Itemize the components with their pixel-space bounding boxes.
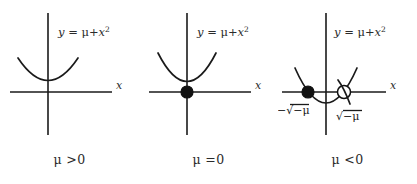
plot-mu-zero: x y = μ+x2 xyxy=(139,0,278,152)
equation-label: y = μ+x2 xyxy=(57,25,110,39)
panel-caption-mu-positive: μ >0 xyxy=(0,152,139,167)
root-label-left-text: −√−μ xyxy=(278,104,310,117)
equation-label: y = μ+x2 xyxy=(333,25,386,39)
panel-mu-positive: x y = μ+x2 μ >0 xyxy=(0,0,139,184)
equation-sign: = xyxy=(207,25,217,39)
root-label-left: −√−μ xyxy=(278,104,310,117)
x-axis-label: x xyxy=(255,79,262,92)
equilibrium-marker-open xyxy=(338,86,351,99)
panel-caption-mu-zero: μ =0 xyxy=(139,152,278,167)
panel-caption-mu-negative: μ <0 xyxy=(278,152,417,167)
figure-root: x y = μ+x2 μ >0 x y = μ+x2 μ =0 xyxy=(0,0,417,184)
equilibrium-marker-filled xyxy=(302,86,314,98)
equation-sign: = xyxy=(68,25,78,39)
x-axis-label: x xyxy=(390,79,397,92)
equation-rhs-exponent: 2 xyxy=(244,25,249,34)
panel-mu-zero: x y = μ+x2 μ =0 xyxy=(139,0,278,184)
equation-rhs-mu: μ+ xyxy=(81,25,98,39)
equation-rhs-mu: μ+ xyxy=(220,25,237,39)
x-axis-label: x xyxy=(116,79,123,92)
equilibrium-marker-filled xyxy=(181,86,193,98)
root-label-right: √−μ xyxy=(336,110,362,123)
equation-rhs-exponent: 2 xyxy=(105,25,110,34)
plot-mu-negative: x −√−μ √−μ y = μ+x2 xyxy=(278,0,417,152)
root-label-left-radicand: −μ xyxy=(293,104,309,117)
equation-sign: = xyxy=(344,25,354,39)
equation-label: y = μ+x2 xyxy=(196,25,249,39)
root-label-right-radicand: −μ xyxy=(343,110,359,123)
equation-rhs-mu: μ+ xyxy=(357,25,374,39)
root-label-left-prefix: − xyxy=(278,104,286,117)
root-label-right-text: √−μ xyxy=(336,110,359,123)
panel-mu-negative: x −√−μ √−μ y = μ+x2 μ <0 xyxy=(278,0,417,184)
plot-mu-positive: x y = μ+x2 xyxy=(0,0,139,152)
equation-rhs-exponent: 2 xyxy=(381,25,386,34)
